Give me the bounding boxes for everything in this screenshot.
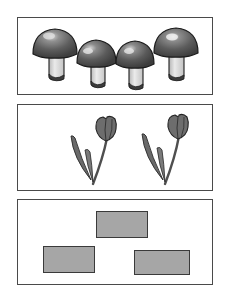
mushroom-panel bbox=[17, 17, 213, 95]
mushroom-1-graphic bbox=[31, 23, 81, 85]
mushroom-4-highlight bbox=[166, 34, 178, 41]
tulip-1-stem bbox=[93, 138, 107, 184]
mushroom-3-highlight bbox=[124, 48, 134, 54]
mushroom-4-cap bbox=[154, 28, 198, 57]
mushroom-1-highlight bbox=[43, 33, 55, 40]
mushroom-1-cap bbox=[33, 29, 77, 58]
tulip-2-graphic bbox=[135, 112, 197, 186]
rectangle-top bbox=[96, 211, 148, 238]
mushroom-4-graphic bbox=[152, 21, 202, 85]
mushroom-3 bbox=[114, 36, 157, 96]
rectangle-bottom-right bbox=[134, 250, 190, 275]
rectangle-panel bbox=[17, 199, 213, 285]
tulip-panel bbox=[17, 104, 213, 191]
tulip-1-graphic bbox=[63, 114, 125, 186]
mushroom-3-graphic bbox=[114, 36, 157, 96]
mushroom-2 bbox=[75, 34, 119, 96]
picture-card bbox=[0, 0, 229, 297]
mushroom-3-cap bbox=[116, 41, 154, 68]
mushroom-2-cap bbox=[77, 40, 116, 67]
mushroom-2-highlight bbox=[83, 48, 93, 54]
mushroom-4 bbox=[152, 21, 202, 85]
mushroom-2-graphic bbox=[75, 34, 119, 96]
tulip-2-stem bbox=[165, 136, 179, 184]
mushroom-1 bbox=[31, 23, 81, 85]
tulip-1 bbox=[63, 114, 125, 186]
rectangle-bottom-left bbox=[43, 246, 95, 273]
tulip-2 bbox=[135, 112, 197, 186]
